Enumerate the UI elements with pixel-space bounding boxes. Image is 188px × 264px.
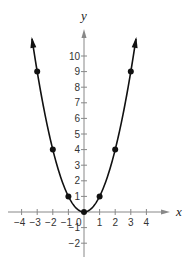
data-point [65,193,71,199]
y-axis-label: y [79,8,87,23]
x-axis-arrow-icon [161,210,170,215]
y-tick-label: 10 [69,51,81,62]
x-tick-label: 1 [97,217,103,228]
data-point [81,209,87,215]
origin-label: 0 [76,217,82,228]
x-tick-label: −4 [14,217,26,228]
y-tick-label: 2 [74,175,80,186]
y-tick-label: 9 [74,66,80,77]
data-point [97,193,103,199]
y-tick-label: 1 [74,191,80,202]
y-axis-arrow-icon [82,29,87,38]
curve-arrow-right-icon [132,37,138,48]
x-tick-label: 2 [112,217,118,228]
data-point [128,69,134,75]
x-tick-label: −3 [29,217,41,228]
x-tick-label: 3 [128,217,134,228]
x-tick-label: −2 [45,217,57,228]
y-tick-label: −2 [69,238,81,249]
y-tick-label: 7 [74,97,80,108]
y-tick-label: 3 [74,160,80,171]
y-tick-label: 6 [74,113,80,124]
x-axis-label: x [175,204,182,219]
data-point [50,147,56,153]
data-point [112,147,118,153]
y-tick-label: 8 [74,82,80,93]
curve-arrow-left-icon [30,37,36,48]
y-tick-label: 4 [74,144,80,155]
y-tick-label: 5 [74,129,80,140]
data-point [34,69,40,75]
x-tick-label: 4 [144,217,150,228]
parabola-chart: −4−3−2−11234−2−112345678910 x y 0 [0,0,188,264]
